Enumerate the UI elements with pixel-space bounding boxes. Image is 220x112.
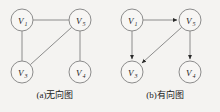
panel-undirected-graph: V 1 V 5 V 3 V 4 (a)无向图 [0,0,110,112]
caption-undirected: (a)无向图 [0,88,110,101]
node-v5-subscript: 5 [193,21,196,27]
node-v4-subscript: 4 [193,73,196,79]
directed-graph-canvas: V 1 V 5 V 3 V 4 [110,0,220,90]
node-v3-subscript: 3 [24,73,28,79]
arrow-v5-to-v3 [142,27,182,63]
figure-root: V 1 V 5 V 3 V 4 (a)无向图 [0,0,220,112]
node-v1-subscript: 1 [135,21,138,27]
panel-directed-graph: V 1 V 5 V 3 V 4 (b)有向图 [110,0,220,112]
caption-directed: (b)有向图 [110,88,220,101]
node-v4-subscript: 4 [83,73,86,79]
node-v1-subscript: 1 [25,21,28,27]
undirected-graph-canvas: V 1 V 5 V 3 V 4 [0,0,110,90]
edge-v3-v5 [30,27,71,64]
node-v5-subscript: 5 [83,21,86,27]
node-v3-subscript: 3 [134,73,138,79]
